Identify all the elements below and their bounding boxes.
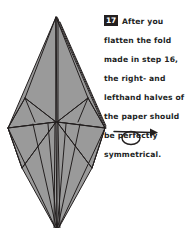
turn-over-loop	[122, 132, 140, 145]
origami-figure-panel: origami-folded-model	[0, 0, 112, 228]
turn-over-symbol: turn the model over	[112, 122, 160, 150]
origami-figure: origami-folded-model	[0, 0, 112, 228]
turn-over-arrowhead	[150, 129, 158, 137]
step-number-badge: 17	[104, 15, 118, 26]
turn-over-arrow-icon: turn the model over	[112, 122, 160, 150]
turn-over-stroke	[114, 132, 152, 133]
instruction-page: origami-folded-model	[0, 0, 193, 228]
